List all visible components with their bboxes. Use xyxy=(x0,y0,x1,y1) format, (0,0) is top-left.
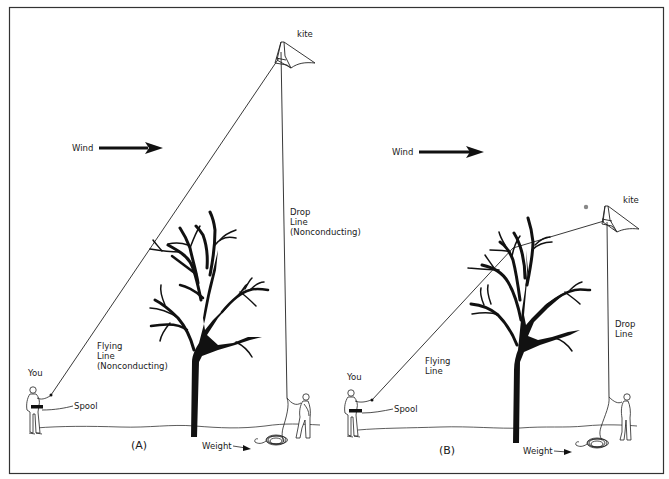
flying-line-label-a: Flying Line (Nonconducting) xyxy=(97,341,168,371)
panel-a: kite Wind Drop Line (Nonconducting) Flyi… xyxy=(27,29,361,452)
ground-line-a xyxy=(36,424,320,428)
flying-line-b-upper xyxy=(513,221,604,248)
flying-line-b-lower xyxy=(372,248,513,400)
svg-text:Drop: Drop xyxy=(615,319,635,329)
svg-text:Line: Line xyxy=(615,329,633,339)
kite-label-a: kite xyxy=(297,29,313,39)
person-drop-b-icon xyxy=(609,394,631,440)
weight-label-a: Weight xyxy=(202,441,232,451)
wind-arrow-b-icon xyxy=(419,146,484,158)
you-label-a: You xyxy=(27,368,43,378)
rope-coil-b-icon xyxy=(576,438,609,448)
wind-arrow-a-icon xyxy=(99,142,163,154)
kite-line-diagram: kite Wind Drop Line (Nonconducting) Flyi… xyxy=(0,0,669,479)
wind-label-a: Wind xyxy=(72,143,93,153)
ground-line-b xyxy=(358,425,637,430)
spool-label-a: Spool xyxy=(74,401,98,411)
weight-label-b: Weight xyxy=(523,446,553,456)
kite-label-b: kite xyxy=(623,195,639,205)
svg-text:Line: Line xyxy=(290,217,308,227)
tree-b-icon xyxy=(468,218,590,443)
flying-line-a xyxy=(51,58,279,395)
drop-line-label-a: Drop Line (Nonconducting) xyxy=(290,207,361,237)
drop-line-label-b: Drop Line xyxy=(615,319,635,339)
svg-text:Line: Line xyxy=(425,366,443,376)
panel-b: kite Wind Drop Line Flying Line You Spoo… xyxy=(345,146,639,457)
svg-text:Flying: Flying xyxy=(97,341,122,351)
svg-text:Drop: Drop xyxy=(290,207,310,217)
stray-dot xyxy=(584,205,588,209)
drop-line-b xyxy=(607,222,609,397)
weight-arrow-b-icon xyxy=(554,449,572,455)
caption-b: (B) xyxy=(439,444,455,457)
svg-text:Flying: Flying xyxy=(425,356,450,366)
weight-arrow-a-icon xyxy=(233,445,251,451)
tree-a-icon xyxy=(150,212,268,437)
wind-label-b: Wind xyxy=(392,147,413,157)
you-label-b: You xyxy=(346,372,362,382)
diagram-frame xyxy=(10,8,664,474)
person-drop-a-icon xyxy=(287,394,310,438)
drop-line-a xyxy=(281,52,287,398)
caption-a: (A) xyxy=(131,439,147,452)
kite-b-icon xyxy=(602,206,639,232)
spool-label-b: Spool xyxy=(394,404,418,414)
rope-coil-a-icon xyxy=(255,435,288,445)
svg-text:(Nonconducting): (Nonconducting) xyxy=(290,227,361,237)
svg-text:Line: Line xyxy=(97,351,115,361)
svg-text:(Nonconducting): (Nonconducting) xyxy=(97,361,168,371)
flying-line-label-b: Flying Line xyxy=(425,356,450,376)
